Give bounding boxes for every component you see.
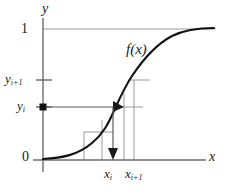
y-tick-label-i-plus-1: yi+1 bbox=[5, 72, 22, 87]
x-tick-label-i-plus-1: xi+1 bbox=[125, 167, 142, 182]
origin-label: 0 bbox=[22, 150, 29, 164]
arrow-v-head bbox=[108, 148, 118, 160]
y-axis-top-tick-label: 1 bbox=[21, 22, 28, 36]
y-tick-label-i-plus-1-sub: i+1 bbox=[11, 78, 23, 87]
y-axis-sample-point bbox=[40, 104, 47, 111]
figure-canvas: 1 y 0 x yi+1 yi xi xi+1 f(x) bbox=[0, 0, 232, 195]
x-axis-label: x bbox=[209, 150, 215, 164]
y-tick-label-i: yi bbox=[17, 99, 25, 114]
tick-marks bbox=[36, 80, 52, 107]
axes bbox=[33, 18, 206, 172]
y-axis-label: y bbox=[42, 2, 48, 16]
x-tick-label-i-sub: i bbox=[110, 173, 112, 182]
y-tick-label-i-sub: i bbox=[23, 105, 25, 114]
plot-svg bbox=[0, 0, 232, 195]
x-tick-label-i-plus-1-sub: i+1 bbox=[131, 173, 143, 182]
x-tick-label-i: xi bbox=[104, 167, 112, 182]
curve-label-fx: f(x) bbox=[126, 42, 147, 57]
